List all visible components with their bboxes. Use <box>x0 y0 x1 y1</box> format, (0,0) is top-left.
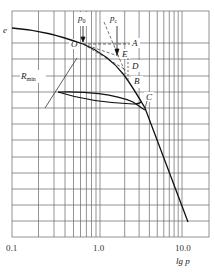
c-pointer <box>145 101 147 108</box>
point-c-label: C <box>146 93 152 102</box>
grid <box>12 11 209 237</box>
x-tick-1-0: 1.0 <box>93 244 104 253</box>
x-tick-10-0: 10.0 <box>175 244 191 253</box>
rmin-line <box>45 58 77 108</box>
point-b-label: B <box>134 77 140 86</box>
pc-label: pc <box>110 14 117 24</box>
p0-label: p0 <box>78 14 86 24</box>
point-d-label: D <box>132 62 139 71</box>
e-lgp-diagram <box>0 0 215 272</box>
pc-arrow <box>115 26 119 55</box>
rmin-label: Rmin <box>21 72 36 82</box>
x-axis-label: lg p <box>176 257 190 266</box>
p0-arrow <box>81 26 85 42</box>
point-a-label: A <box>132 39 138 48</box>
point-o-label: O <box>71 40 78 49</box>
y-axis-label: e <box>3 26 7 35</box>
point-e-label: E <box>122 50 128 59</box>
x-tick-0-1: 0.1 <box>6 244 17 253</box>
